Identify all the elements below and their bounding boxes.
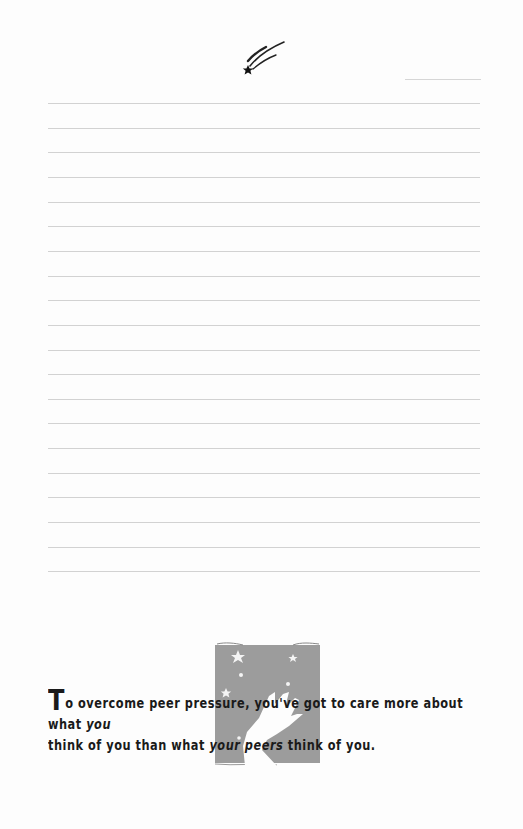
ruled-line bbox=[48, 128, 480, 129]
ruled-line bbox=[48, 497, 480, 498]
quote-emphasis-your-peers: your peers bbox=[209, 738, 283, 753]
ruled-line bbox=[48, 103, 480, 104]
ruled-line bbox=[48, 202, 480, 203]
ruled-line bbox=[48, 522, 480, 523]
journal-page: To overcome peer pressure, you've got to… bbox=[0, 0, 523, 829]
ruled-line bbox=[48, 251, 480, 252]
quote-part-3: think of you. bbox=[283, 738, 375, 753]
ruled-line bbox=[48, 374, 480, 375]
ruled-line bbox=[48, 276, 480, 277]
ruled-line bbox=[48, 177, 480, 178]
ruled-line bbox=[48, 547, 480, 548]
short-rule-line bbox=[405, 79, 481, 80]
ruled-line bbox=[48, 350, 480, 351]
ruled-line bbox=[48, 399, 480, 400]
shooting-star-icon bbox=[240, 40, 286, 76]
ruled-line bbox=[48, 448, 480, 449]
ruled-line bbox=[48, 226, 480, 227]
ruled-line bbox=[48, 473, 480, 474]
quote-text: To overcome peer pressure, you've got to… bbox=[48, 691, 495, 756]
quote-emphasis-you: you bbox=[86, 717, 111, 732]
drop-cap: T bbox=[48, 684, 64, 717]
ruled-line bbox=[48, 300, 480, 301]
ruled-line bbox=[48, 423, 480, 424]
ruled-line bbox=[48, 152, 480, 153]
quote-part-2: think of you than what bbox=[48, 738, 209, 753]
ruled-line bbox=[48, 571, 480, 572]
ruled-line bbox=[48, 325, 480, 326]
